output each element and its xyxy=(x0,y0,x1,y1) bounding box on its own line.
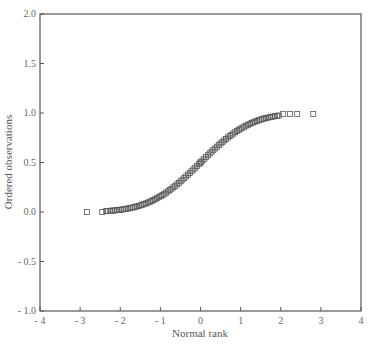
data-point xyxy=(295,111,300,116)
x-tick-label: - 1 xyxy=(155,315,166,326)
data-point xyxy=(220,139,225,144)
data-point xyxy=(106,208,111,213)
data-point xyxy=(84,210,89,215)
plot-frame xyxy=(40,14,361,311)
data-point xyxy=(184,174,189,179)
x-tick-label: - 4 xyxy=(35,315,46,326)
y-tick-label: - 1.0 xyxy=(18,305,36,316)
data-points xyxy=(84,111,315,214)
y-tick-label: 1.0 xyxy=(24,107,37,118)
data-point xyxy=(222,138,227,143)
data-point xyxy=(109,208,114,213)
y-tick-label: 2.0 xyxy=(24,8,37,19)
x-tick-label: 0 xyxy=(198,315,203,326)
y-axis-label: Ordered observations xyxy=(2,115,14,209)
data-point xyxy=(287,111,292,116)
data-point xyxy=(211,148,216,153)
data-point xyxy=(191,167,196,172)
data-point xyxy=(209,149,214,154)
x-tick-label: 1 xyxy=(238,315,243,326)
data-point xyxy=(198,160,203,165)
y-tick-label: 1.5 xyxy=(24,58,37,69)
data-point xyxy=(175,182,180,187)
data-point xyxy=(180,177,185,182)
data-point xyxy=(176,180,181,185)
qq-plot: - 4- 3- 2- 101234 - 1.0- 0.50.00.51.01.5… xyxy=(0,0,372,346)
data-point xyxy=(189,169,194,174)
x-tick-label: - 2 xyxy=(115,315,126,326)
x-tick-label: - 3 xyxy=(75,315,86,326)
x-tick-label: 3 xyxy=(318,315,323,326)
data-point xyxy=(195,163,200,168)
data-point xyxy=(178,179,183,184)
data-point xyxy=(216,143,221,148)
data-point xyxy=(187,170,192,175)
data-point xyxy=(311,111,316,116)
data-point xyxy=(207,151,212,156)
data-point xyxy=(213,146,218,151)
y-tick-label: - 0.5 xyxy=(18,256,36,267)
data-point xyxy=(205,153,210,158)
data-point xyxy=(214,144,219,149)
x-axis-label: Normal rank xyxy=(172,327,228,339)
data-point xyxy=(204,155,209,160)
data-point xyxy=(193,165,198,170)
x-tick-label: 4 xyxy=(359,315,364,326)
data-point xyxy=(182,176,187,181)
x-axis-ticks: - 4- 3- 2- 101234 xyxy=(35,307,364,326)
y-tick-label: 0.0 xyxy=(24,206,37,217)
data-point xyxy=(185,172,190,177)
data-point xyxy=(218,141,223,146)
data-point xyxy=(200,158,205,163)
x-tick-label: 2 xyxy=(278,315,283,326)
data-point xyxy=(107,208,112,213)
data-point xyxy=(202,156,207,161)
data-point xyxy=(198,160,203,165)
y-tick-label: 0.5 xyxy=(24,157,37,168)
data-point xyxy=(196,162,201,167)
